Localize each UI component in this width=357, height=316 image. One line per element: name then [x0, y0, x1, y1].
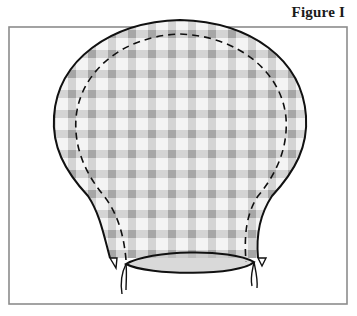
right-tie — [251, 258, 266, 288]
figure-illustration — [0, 0, 357, 316]
fabric-piece — [54, 20, 306, 258]
left-tie — [110, 258, 126, 294]
